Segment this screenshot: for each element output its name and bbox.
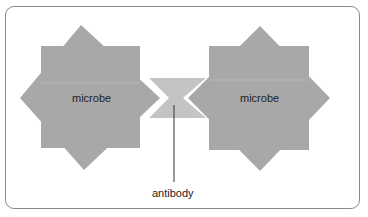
left-microbe-label: microbe	[72, 92, 111, 104]
diagram-canvas	[0, 0, 368, 217]
antibody-label: antibody	[152, 187, 194, 199]
right-microbe-label: microbe	[240, 92, 279, 104]
